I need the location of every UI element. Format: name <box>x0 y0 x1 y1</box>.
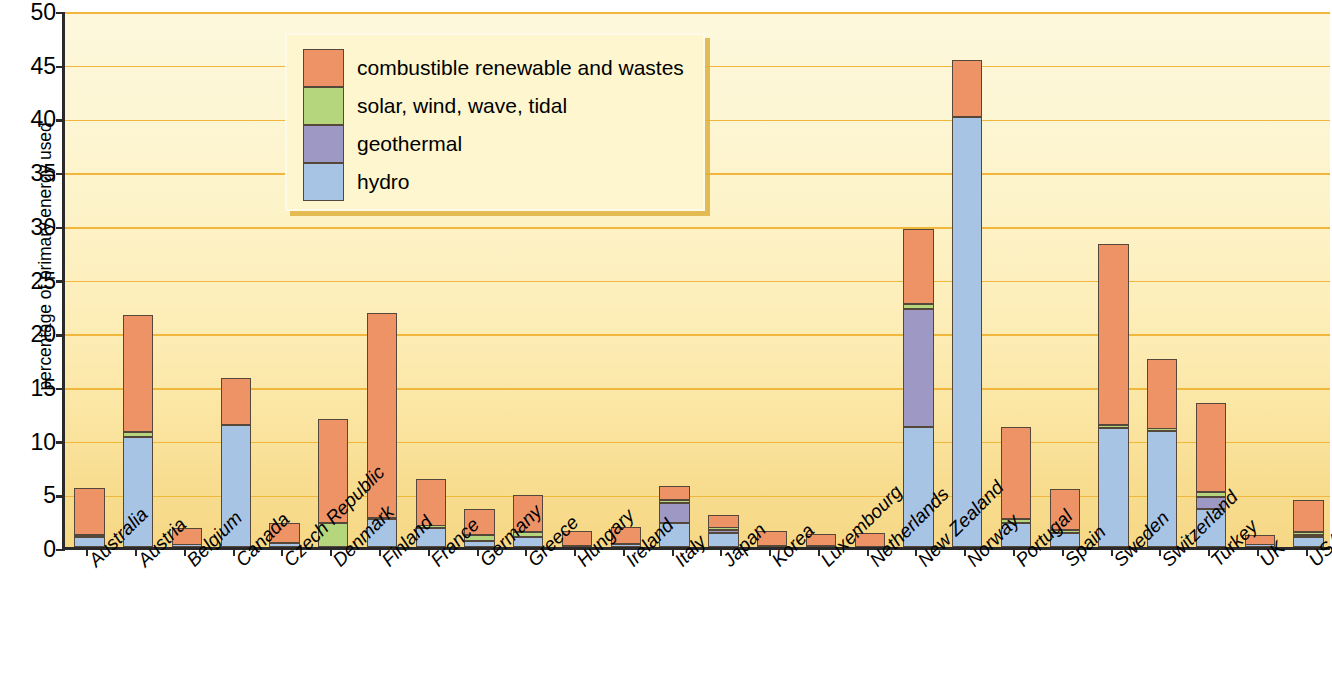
bar-segment-solar <box>123 432 153 437</box>
y-axis-tick-label: 15 <box>10 377 56 400</box>
x-axis-tick-labels: AustraliaAustriaBelgiumCanadaCzech Repub… <box>62 550 1330 676</box>
y-axis-tick-label: 35 <box>10 162 56 185</box>
bar-stack[interactable] <box>1001 10 1031 547</box>
bar-segment-comb <box>123 315 153 432</box>
y-axis-tick-mark <box>56 280 65 283</box>
bar-stack[interactable] <box>806 10 836 547</box>
legend-swatch-geo <box>303 125 344 163</box>
legend-label: combustible renewable and wastes <box>357 56 684 80</box>
bar-segment-comb <box>952 60 982 117</box>
bar-stack[interactable] <box>855 10 885 547</box>
bar-segment-solar <box>659 500 689 503</box>
bar-segment-comb <box>903 229 933 304</box>
legend-item[interactable]: solar, wind, wave, tidal <box>303 87 567 125</box>
bar-segment-comb <box>1147 359 1177 429</box>
bar-stack[interactable] <box>757 10 787 547</box>
y-axis-tick-mark <box>56 66 65 69</box>
bar-stack[interactable] <box>1293 10 1323 547</box>
bar-segment-comb <box>1196 403 1226 492</box>
bar-stack[interactable] <box>221 10 251 547</box>
bar-stack[interactable] <box>903 10 933 547</box>
y-axis-tick-label: 40 <box>10 108 56 131</box>
bar-segment-geo <box>708 530 738 533</box>
bar-stack[interactable] <box>1098 10 1128 547</box>
bar-stack[interactable] <box>708 10 738 547</box>
chart-root: percentage of primary energy used 051015… <box>0 0 1332 676</box>
bar-segment-comb <box>659 486 689 500</box>
legend-item[interactable]: hydro <box>303 163 410 201</box>
bar-segment-comb <box>1001 427 1031 519</box>
chart-legend: combustible renewable and wastessolar, w… <box>285 33 705 211</box>
y-axis-tick-label: 10 <box>10 431 56 454</box>
bar-stack[interactable] <box>1050 10 1080 547</box>
y-axis-tick-label: 0 <box>10 538 56 561</box>
bar-stack[interactable] <box>1245 10 1275 547</box>
bar-stack[interactable] <box>952 10 982 547</box>
y-axis-title: percentage of primary energy used <box>35 27 56 487</box>
bar-segment-comb <box>708 515 738 528</box>
bar-segment-comb <box>221 378 251 424</box>
legend-swatch-comb <box>303 49 344 87</box>
legend-label: solar, wind, wave, tidal <box>357 94 567 118</box>
bar-stack[interactable] <box>1147 10 1177 547</box>
legend-label: geothermal <box>357 132 462 156</box>
y-axis-tick-mark <box>56 173 65 176</box>
y-axis-tick-mark <box>56 119 65 122</box>
y-axis-tick-mark <box>56 388 65 391</box>
legend-swatch-hydro <box>303 163 344 201</box>
y-axis-tick-mark <box>56 334 65 337</box>
bar-segment-comb <box>1098 244 1128 424</box>
bar-stack[interactable] <box>172 10 202 547</box>
bar-segment-comb <box>1293 500 1323 532</box>
y-axis-tick-label: 20 <box>10 323 56 346</box>
bar-segment-solar <box>903 304 933 308</box>
bar-segment-solar <box>1293 532 1323 535</box>
bar-stack[interactable] <box>1196 10 1226 547</box>
y-axis-tick-mark <box>56 12 65 15</box>
y-axis-tick-label: 5 <box>10 484 56 507</box>
bar-segment-comb <box>74 488 104 535</box>
y-axis-tick-label: 30 <box>10 216 56 239</box>
bar-stack[interactable] <box>123 10 153 547</box>
y-axis-tick-label: 50 <box>10 1 56 24</box>
y-axis-tick-label: 25 <box>10 270 56 293</box>
legend-item[interactable]: geothermal <box>303 125 462 163</box>
bar-segment-geo <box>903 309 933 427</box>
bar-segment-hydro <box>952 117 982 547</box>
legend-label: hydro <box>357 170 410 194</box>
legend-swatch-solar <box>303 87 344 125</box>
y-axis-tick-mark <box>56 227 65 230</box>
y-axis-tick-mark <box>56 495 65 498</box>
bar-segment-solar <box>1098 425 1128 428</box>
bar-stack[interactable] <box>74 10 104 547</box>
y-axis-tick-label: 45 <box>10 55 56 78</box>
y-axis-tick-mark <box>56 441 65 444</box>
legend-item[interactable]: combustible renewable and wastes <box>303 49 684 87</box>
